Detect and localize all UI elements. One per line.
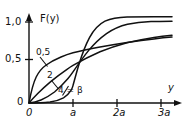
curve-label-beta-0-5: 0,5 [36, 48, 50, 57]
curve-group [29, 17, 172, 103]
y-tick-label-0-5: 0,5 [5, 54, 22, 64]
x-axis-arrowhead [174, 100, 182, 106]
y-tick-label-0: 0 [17, 97, 24, 107]
leader-line-beta-0-5 [40, 57, 48, 67]
curve-beta-4 [29, 17, 172, 103]
x-tick-label-a: a [70, 108, 76, 118]
y-axis-arrowhead [26, 13, 32, 21]
weibull-cdf-figure: 1,0 0,5 0 F(y) y 0 a 2a 3a 0,5 2 4 = β [0, 0, 184, 126]
y-axis-title: F(y) [40, 14, 59, 24]
x-axis-title: y [168, 83, 174, 93]
x-tick-label-2a: 2a [113, 108, 126, 118]
y-tick-label-1: 1,0 [5, 17, 22, 27]
x-tick-label-3a: 3a [158, 108, 171, 118]
axis-group [25, 13, 182, 107]
curve-label-beta-4: 4 = β [58, 86, 83, 95]
curve-label-beta-2: 2 [47, 71, 53, 80]
x-tick-label-0: 0 [26, 108, 32, 118]
